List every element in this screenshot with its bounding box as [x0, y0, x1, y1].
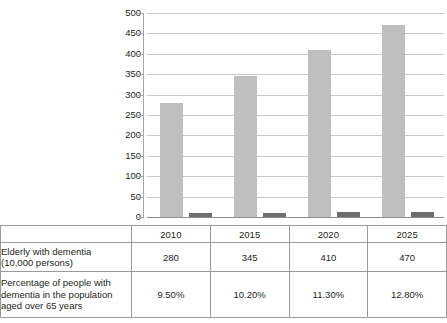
chart-page: 050100150200250300350400450500 2010 2015…: [0, 0, 447, 323]
count-value-2015: 345: [210, 243, 289, 272]
y-tick-mark-300: [138, 95, 143, 96]
bar-category-2020: [296, 13, 370, 217]
year-header-3: 2025: [368, 226, 447, 243]
row-label-line2: (10,000 persons): [1, 257, 73, 268]
bar-percentage-over-65-2015: [263, 213, 286, 217]
table-row-counts: Elderly with dementia (10,000 persons) 2…: [1, 243, 447, 272]
year-header-0: 2010: [132, 226, 211, 243]
y-tick-label-450: 450: [95, 29, 141, 39]
y-tick-label-50: 50: [95, 192, 141, 202]
y-tick-mark-350: [138, 74, 143, 75]
gridline-0: [147, 217, 444, 218]
percentage-value-2020: 11.30%: [289, 272, 368, 318]
y-axis-tick-labels: 050100150200250300350400450500: [95, 0, 141, 225]
y-tick-label-350: 350: [95, 69, 141, 79]
row-label-line3: aged over 65 years: [1, 300, 82, 311]
table-row-percentages: Percentage of people with dementia in th…: [1, 272, 447, 318]
y-tick-mark-250: [138, 115, 143, 116]
y-tick-mark-500: [138, 13, 143, 14]
y-tick-mark-450: [138, 33, 143, 34]
bar-chart: 050100150200250300350400450500: [0, 0, 447, 225]
count-value-2020: 410: [289, 243, 368, 272]
data-table-wrapper: 2010 2015 2020 2025 Elderly with dementi…: [0, 225, 447, 323]
bar-elderly-with-dementia-2020: [308, 50, 331, 217]
row-label-line2: dementia in the population: [1, 289, 112, 300]
percentage-value-2010: 9.50%: [132, 272, 211, 318]
y-tick-label-400: 400: [95, 49, 141, 59]
y-tick-mark-0: [138, 217, 143, 218]
percentage-value-2015: 10.20%: [210, 272, 289, 318]
bar-percentage-over-65-2025: [411, 212, 434, 217]
y-tick-mark-400: [138, 54, 143, 55]
bar-percentage-over-65-2010: [189, 213, 212, 217]
y-tick-label-0: 0: [95, 212, 141, 222]
data-table: 2010 2015 2020 2025 Elderly with dementi…: [0, 225, 447, 318]
y-tick-label-200: 200: [95, 131, 141, 141]
table-row-years: 2010 2015 2020 2025: [1, 226, 447, 243]
plot-area: [147, 13, 444, 217]
y-tick-mark-150: [138, 156, 143, 157]
bar-percentage-over-65-2020: [337, 212, 360, 217]
row-label-line1: Elderly with dementia: [1, 246, 91, 257]
row-label-line1: Percentage of people with: [1, 277, 111, 288]
bar-category-2015: [221, 13, 295, 217]
row-label-elderly-with-dementia: Elderly with dementia (10,000 persons): [1, 243, 132, 272]
y-tick-mark-100: [138, 176, 143, 177]
count-value-2025: 470: [368, 243, 447, 272]
y-tick-label-250: 250: [95, 110, 141, 120]
y-tick-mark-50: [138, 197, 143, 198]
bar-category-2010: [147, 13, 221, 217]
y-tick-mark-200: [138, 135, 143, 136]
bar-elderly-with-dementia-2010: [160, 103, 183, 217]
y-axis-line: [143, 13, 144, 218]
count-value-2010: 280: [132, 243, 211, 272]
percentage-value-2025: 12.80%: [368, 272, 447, 318]
y-tick-label-150: 150: [95, 151, 141, 161]
table-corner-blank: [1, 226, 132, 243]
bar-category-2025: [370, 13, 444, 217]
bar-elderly-with-dementia-2015: [234, 76, 257, 217]
row-label-percentage-over-65: Percentage of people with dementia in th…: [1, 272, 132, 318]
y-tick-label-500: 500: [95, 8, 141, 18]
year-header-1: 2015: [210, 226, 289, 243]
y-tick-label-100: 100: [95, 171, 141, 181]
year-header-2: 2020: [289, 226, 368, 243]
bar-elderly-with-dementia-2025: [382, 25, 405, 217]
y-tick-label-300: 300: [95, 90, 141, 100]
